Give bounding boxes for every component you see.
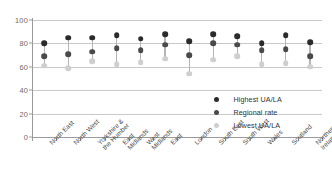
data-point-high	[90, 35, 96, 41]
data-point-high	[138, 36, 144, 42]
x-tick-label: South West	[241, 141, 246, 146]
legend-swatch-icon	[214, 123, 219, 128]
data-point-mid	[235, 42, 241, 48]
y-tick-label: 0	[0, 133, 28, 142]
data-point-mid	[41, 53, 47, 59]
data-point-mid	[162, 42, 168, 48]
legend-label: Lowest UA/LA	[233, 121, 280, 130]
legend-label: Highest UA/LA	[233, 95, 281, 104]
data-point-high	[210, 31, 216, 37]
range-stem	[213, 34, 214, 60]
data-point-low	[162, 56, 168, 62]
legend-label: Regional rate	[233, 108, 277, 117]
data-point-low	[283, 60, 289, 66]
x-tick-label: West Midlands	[145, 141, 155, 151]
data-point-high	[65, 35, 71, 41]
x-tick-label: North West	[72, 141, 77, 146]
data-point-high	[41, 41, 47, 47]
x-tick-label: East	[169, 141, 174, 146]
y-tick-label: 20	[0, 109, 28, 118]
data-point-low	[90, 58, 96, 64]
x-tick-label: North East	[48, 141, 53, 146]
x-tick-label: South East	[217, 141, 222, 146]
x-tick-label: Yorkshire & the Humber	[96, 141, 106, 151]
data-point-mid	[307, 53, 313, 59]
data-point-mid	[259, 48, 265, 54]
data-point-mid	[65, 51, 71, 57]
data-point-low	[210, 57, 216, 63]
x-tick-label: Wales	[266, 141, 271, 146]
data-point-low	[186, 71, 192, 77]
data-point-low	[114, 62, 120, 68]
data-point-high	[162, 31, 168, 37]
data-point-high	[114, 32, 120, 38]
data-point-low	[138, 59, 144, 65]
legend-item: Regional rate	[196, 106, 316, 119]
x-tick-label: London	[193, 141, 198, 146]
x-tick-label: Scotland	[290, 141, 295, 146]
data-point-low	[41, 63, 47, 69]
y-tick-label: 40	[0, 86, 28, 95]
chart-legend: Highest UA/LARegional rateLowest UA/LA	[196, 93, 316, 132]
data-point-mid	[186, 52, 192, 58]
x-tick-label: East Midlands	[121, 141, 131, 151]
x-tick-label: Northern Ireland	[314, 141, 324, 151]
y-tick-label: 80	[0, 39, 28, 48]
legend-swatch-icon	[214, 110, 219, 115]
legend-item: Highest UA/LA	[196, 93, 316, 106]
data-point-high	[186, 38, 192, 44]
data-point-mid	[90, 49, 96, 55]
data-point-high	[259, 41, 265, 47]
data-point-mid	[210, 41, 216, 47]
data-point-mid	[114, 45, 120, 51]
y-tick-label: 60	[0, 62, 28, 71]
x-tick-mark	[32, 137, 33, 141]
data-point-high	[235, 34, 241, 40]
data-point-low	[65, 65, 71, 71]
data-point-low	[307, 64, 313, 70]
data-point-low	[235, 53, 241, 59]
chart-container: 020406080100 North EastNorth WestYorkshi…	[0, 0, 332, 196]
data-point-high	[307, 39, 313, 45]
data-point-high	[283, 32, 289, 38]
data-point-mid	[283, 46, 289, 52]
data-point-mid	[138, 48, 144, 54]
y-tick-label: 100	[0, 16, 28, 25]
legend-item: Lowest UA/LA	[196, 119, 316, 132]
data-point-low	[259, 62, 265, 68]
legend-swatch-icon	[214, 97, 219, 102]
